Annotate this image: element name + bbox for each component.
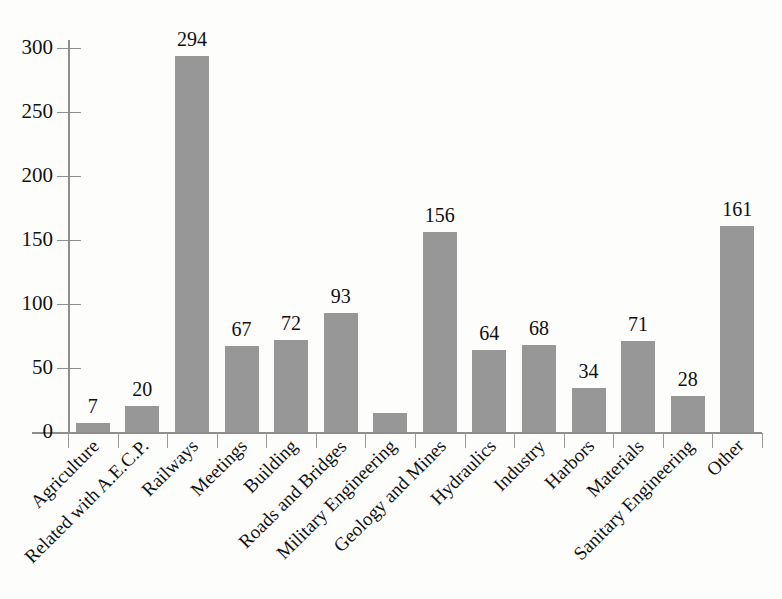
bar-value-label: 294 — [152, 29, 232, 49]
bar[interactable] — [76, 423, 110, 432]
bar[interactable] — [522, 345, 556, 432]
x-axis-category-label: Other — [703, 436, 747, 480]
bar-value-label: 161 — [697, 199, 777, 219]
bar-value-label: 68 — [499, 318, 579, 338]
bar-chart: 050100150200250300 720294677293156646834… — [0, 0, 782, 599]
bar[interactable] — [373, 413, 407, 432]
bar-value-label: 71 — [598, 314, 678, 334]
bar[interactable] — [274, 340, 308, 432]
bar[interactable] — [671, 396, 705, 432]
bar[interactable] — [175, 56, 209, 432]
bar[interactable] — [572, 388, 606, 432]
bar-value-label: 28 — [648, 369, 728, 389]
bar[interactable] — [225, 346, 259, 432]
bar-value-label: 34 — [549, 361, 629, 381]
bar[interactable] — [720, 226, 754, 432]
bar-value-label: 156 — [400, 205, 480, 225]
bar-value-label: 72 — [251, 313, 331, 333]
x-axis-category-labels: AgricultureRelated with A.E.C.P.Railways… — [0, 434, 782, 599]
bar-value-label: 93 — [301, 286, 381, 306]
bar-value-label: 20 — [102, 379, 182, 399]
x-axis-category-label: Industry — [490, 436, 548, 494]
bar[interactable] — [472, 350, 506, 432]
